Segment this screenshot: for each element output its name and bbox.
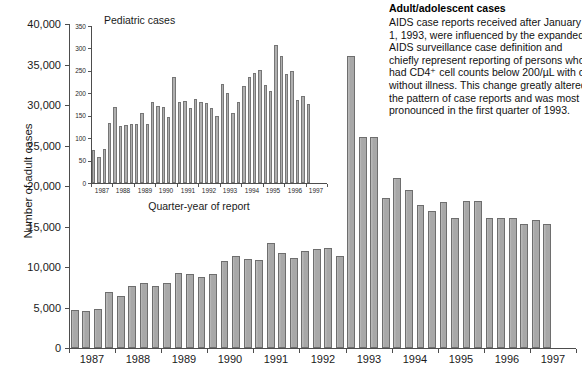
main-x-tick-label: 1989: [162, 354, 206, 365]
inset-y-tick-label: 50: [65, 157, 86, 164]
main-bar: [209, 274, 217, 348]
main-bar: [543, 224, 551, 348]
inset-bar: [237, 102, 240, 183]
inset-chart-title: Pediatric cases: [104, 14, 175, 26]
main-x-tick-mark: [530, 349, 531, 353]
annotation-line: AIDS case reports received after January: [389, 16, 581, 29]
main-bar: [82, 311, 90, 348]
main-x-tick-label: 1997: [531, 354, 575, 365]
main-x-tick-label: 1993: [347, 354, 391, 365]
main-x-tick-mark: [484, 349, 485, 353]
main-bar: [198, 277, 206, 348]
inset-y-tick-label: 200: [65, 90, 86, 97]
main-bar: [255, 260, 263, 348]
inset-bar: [285, 74, 288, 183]
main-bar: [382, 198, 390, 348]
inset-bar: [226, 93, 229, 183]
inset-y-tick-label: 350: [65, 23, 86, 30]
main-bar: [324, 248, 332, 348]
main-x-tick-mark: [115, 349, 116, 353]
main-bar: [509, 218, 517, 348]
main-y-tick-label: 20,000: [3, 181, 61, 192]
inset-bar: [210, 108, 213, 183]
inset-bar: [290, 71, 293, 183]
main-x-tick-mark: [392, 349, 393, 353]
main-x-tick-mark: [69, 349, 70, 353]
main-x-tick-label: 1991: [254, 354, 298, 365]
main-bar: [486, 218, 494, 348]
main-bar: [359, 137, 367, 348]
inset-y-axis-line: [91, 26, 92, 183]
main-bar: [163, 283, 171, 348]
inset-bar: [119, 126, 122, 183]
main-x-tick-mark-end: [576, 349, 577, 353]
inset-bar: [130, 124, 133, 183]
main-bar: [71, 310, 79, 348]
annotation-line: AIDS surveillance case definition and: [389, 41, 581, 54]
main-bar: [532, 220, 540, 348]
main-bar: [267, 243, 275, 348]
inset-bar: [194, 99, 197, 183]
inset-bar: [167, 117, 170, 183]
inset-bar: [140, 113, 143, 183]
inset-bar: [231, 113, 234, 183]
inset-bar: [301, 96, 304, 183]
main-x-tick-mark: [438, 349, 439, 353]
main-bar: [440, 202, 448, 348]
inset-x-tick-label: 1997: [302, 187, 330, 194]
inset-bar: [307, 104, 310, 183]
inset-bar: [258, 70, 261, 183]
main-bar: [186, 274, 194, 348]
inset-bar: [92, 150, 95, 183]
main-bar: [221, 261, 229, 348]
annotation-line: the pattern of case reports and was most: [389, 92, 581, 105]
inset-bar: [151, 102, 154, 183]
main-x-tick-label: 1987: [70, 354, 114, 365]
inset-y-tick-label: 150: [65, 112, 86, 119]
main-x-tick-label: 1990: [208, 354, 252, 365]
main-x-tick-mark: [207, 349, 208, 353]
main-bar: [336, 256, 344, 348]
annotation-line: chiefly represent reporting of persons w…: [389, 54, 581, 67]
main-y-tick-label: 35,000: [3, 60, 61, 71]
main-bar: [290, 258, 298, 348]
inset-bar: [162, 107, 165, 183]
inset-bar: [199, 102, 202, 183]
main-x-tick-label: 1992: [301, 354, 345, 365]
inset-bar: [269, 91, 272, 183]
main-x-tick-label: 1996: [485, 354, 529, 365]
inset-bar: [97, 157, 100, 183]
inset-bar: [253, 73, 256, 183]
annotation-line: had CD4⁺ cell counts below 200/µL with o…: [389, 66, 581, 79]
inset-bar: [189, 108, 192, 183]
main-y-tick-label: 40,000: [3, 19, 61, 30]
main-bar: [497, 218, 505, 348]
main-x-tick-mark: [299, 349, 300, 353]
main-bar: [313, 249, 321, 348]
main-bar: [278, 253, 286, 348]
inset-bar: [113, 107, 116, 183]
inset-bar: [178, 102, 181, 183]
main-bar: [152, 286, 160, 348]
inset-bar: [205, 103, 208, 183]
annotation-block: Adult/adolescent cases AIDS case reports…: [389, 2, 581, 117]
main-bar: [428, 211, 436, 348]
main-y-tick-label: 5,000: [3, 303, 61, 314]
inset-bar: [215, 116, 218, 183]
inset-bar: [135, 124, 138, 183]
inset-bar: [108, 123, 111, 183]
main-x-tick-label: 1995: [439, 354, 483, 365]
inset-y-tick-label: 100: [65, 135, 86, 142]
main-bar: [520, 224, 528, 348]
main-x-axis-line: [69, 348, 576, 349]
main-bar: [370, 137, 378, 348]
main-bar: [140, 283, 148, 348]
main-x-tick-label: 1988: [116, 354, 160, 365]
inset-bar: [264, 85, 267, 183]
inset-chart: Pediatric cases 050100150200250300350 19…: [69, 8, 331, 213]
main-bar: [301, 251, 309, 348]
inset-bar: [172, 77, 175, 183]
main-y-tick-label: 0: [3, 343, 61, 354]
inset-bar: [156, 106, 159, 183]
chart-figure: Number of adult cases 05,00010,00015,000…: [0, 0, 582, 375]
